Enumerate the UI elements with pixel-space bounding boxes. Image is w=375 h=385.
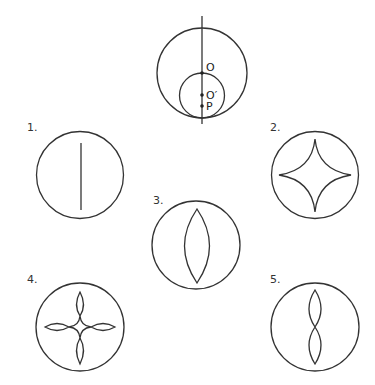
option-4-inner-astroid <box>69 316 91 338</box>
option-2-circle <box>272 132 359 219</box>
diagram-canvas: O O′ P 1. 2. 3. 4. 5. <box>0 0 375 385</box>
option-4-label: 4. <box>27 273 38 286</box>
option-3-label: 3. <box>153 194 164 207</box>
option-5-label: 5. <box>270 273 281 286</box>
option-5[interactable]: 5. <box>270 273 359 371</box>
option-3-circle <box>152 201 240 289</box>
option-4-petal-top <box>77 292 84 316</box>
option-5-figure-eight <box>309 290 321 364</box>
main-figure: O O′ P <box>157 16 247 124</box>
option-4-circle <box>36 283 124 371</box>
point-o <box>200 71 204 75</box>
option-4-petal-right <box>91 324 115 331</box>
option-4[interactable]: 4. <box>27 273 124 371</box>
option-1[interactable]: 1. <box>27 121 124 219</box>
option-1-label: 1. <box>27 121 38 134</box>
option-1-circle <box>37 132 124 219</box>
label-o: O <box>206 61 215 74</box>
option-3[interactable]: 3. <box>152 194 240 289</box>
label-p: P <box>206 100 213 113</box>
option-2-astroid <box>279 139 351 212</box>
point-p <box>200 104 204 108</box>
point-o-prime <box>200 93 204 97</box>
option-4-petal-left <box>45 324 69 331</box>
option-2-label: 2. <box>270 121 281 134</box>
option-4-petal-bottom <box>77 338 84 364</box>
option-2[interactable]: 2. <box>270 121 359 219</box>
option-3-lens <box>185 209 210 283</box>
